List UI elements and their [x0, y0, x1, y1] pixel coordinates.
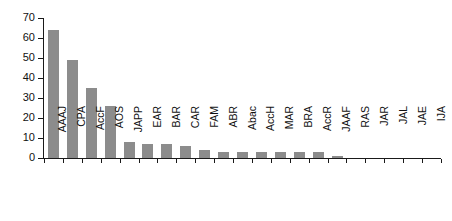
- x-axis-tick-label: BRA: [303, 106, 314, 166]
- x-axis-tick-label: JAL: [398, 106, 409, 166]
- y-axis-tick-label: 70: [0, 12, 35, 23]
- x-axis-label-wrap: AccR: [322, 106, 333, 166]
- x-axis-tick-label: MAR: [284, 106, 295, 166]
- x-axis-label-wrap: JAE: [417, 106, 428, 166]
- y-axis-tick: [38, 58, 43, 59]
- x-axis-label-wrap: AccH: [265, 106, 276, 166]
- x-axis-tick-label: IJA: [436, 106, 447, 166]
- x-axis-tick-label: Abac: [247, 106, 258, 166]
- x-axis-tick-label: AOS: [114, 106, 125, 166]
- x-axis-label-wrap: EAR: [152, 106, 163, 166]
- x-axis-tick-label: AccF: [95, 106, 106, 166]
- x-axis-label-wrap: ABR: [228, 106, 239, 166]
- x-axis-tick-label: ABR: [228, 106, 239, 166]
- x-axis-tick: [44, 159, 45, 163]
- x-axis-label-wrap: CPA: [76, 106, 87, 166]
- x-axis-label-wrap: JAL: [398, 106, 409, 166]
- x-axis-tick-label: CAR: [190, 106, 201, 166]
- x-axis-label-wrap: MAR: [284, 106, 295, 166]
- y-axis-tick: [38, 78, 43, 79]
- x-axis-label-wrap: Abac: [247, 106, 258, 166]
- y-axis-tick-label: 50: [0, 52, 35, 63]
- y-axis-tick-label: 0: [0, 152, 35, 163]
- x-axis-tick-label: BAR: [171, 106, 182, 166]
- bar-chart: 010203040506070 AAAJCPAAccFAOSJAPPEARBAR…: [0, 0, 452, 221]
- x-axis-label-wrap: JAPP: [133, 106, 144, 166]
- y-axis-tick: [38, 18, 43, 19]
- x-axis-tick-label: EAR: [152, 106, 163, 166]
- x-axis-label-wrap: JAR: [379, 106, 390, 166]
- x-axis-tick-label: AccR: [322, 106, 333, 166]
- x-axis-label-wrap: AccF: [95, 106, 106, 166]
- y-axis-tick-label: 40: [0, 72, 35, 83]
- x-axis-label-wrap: FAM: [209, 106, 220, 166]
- x-axis-label-wrap: BAR: [171, 106, 182, 166]
- y-axis-tick-label: 20: [0, 112, 35, 123]
- x-axis-label-wrap: JAAF: [341, 106, 352, 166]
- y-axis-tick: [38, 138, 43, 139]
- y-axis-tick: [38, 98, 43, 99]
- x-axis-tick-label: FAM: [209, 106, 220, 166]
- x-axis-tick-label: AccH: [265, 106, 276, 166]
- x-axis-tick-label: JAE: [417, 106, 428, 166]
- y-axis-tick-label: 60: [0, 32, 35, 43]
- x-axis-label-wrap: AOS: [114, 106, 125, 166]
- x-axis-tick-label: CPA: [76, 106, 87, 166]
- x-axis-tick-label: RAS: [360, 106, 371, 166]
- y-axis-tick: [38, 38, 43, 39]
- x-axis-label-wrap: IJA: [436, 106, 447, 166]
- y-axis-tick-label: 30: [0, 92, 35, 103]
- y-axis-tick-label: 10: [0, 132, 35, 143]
- x-axis-label-wrap: CAR: [190, 106, 201, 166]
- x-axis-tick-label: JAR: [379, 106, 390, 166]
- x-axis-label-wrap: RAS: [360, 106, 371, 166]
- x-axis-label-wrap: AAAJ: [57, 106, 68, 166]
- x-axis-tick-label: JAAF: [341, 106, 352, 166]
- x-axis-label-wrap: BRA: [303, 106, 314, 166]
- y-axis-tick: [38, 118, 43, 119]
- y-axis-tick: [38, 158, 43, 159]
- x-axis-tick-label: AAAJ: [57, 106, 68, 166]
- x-axis-tick-label: JAPP: [133, 106, 144, 166]
